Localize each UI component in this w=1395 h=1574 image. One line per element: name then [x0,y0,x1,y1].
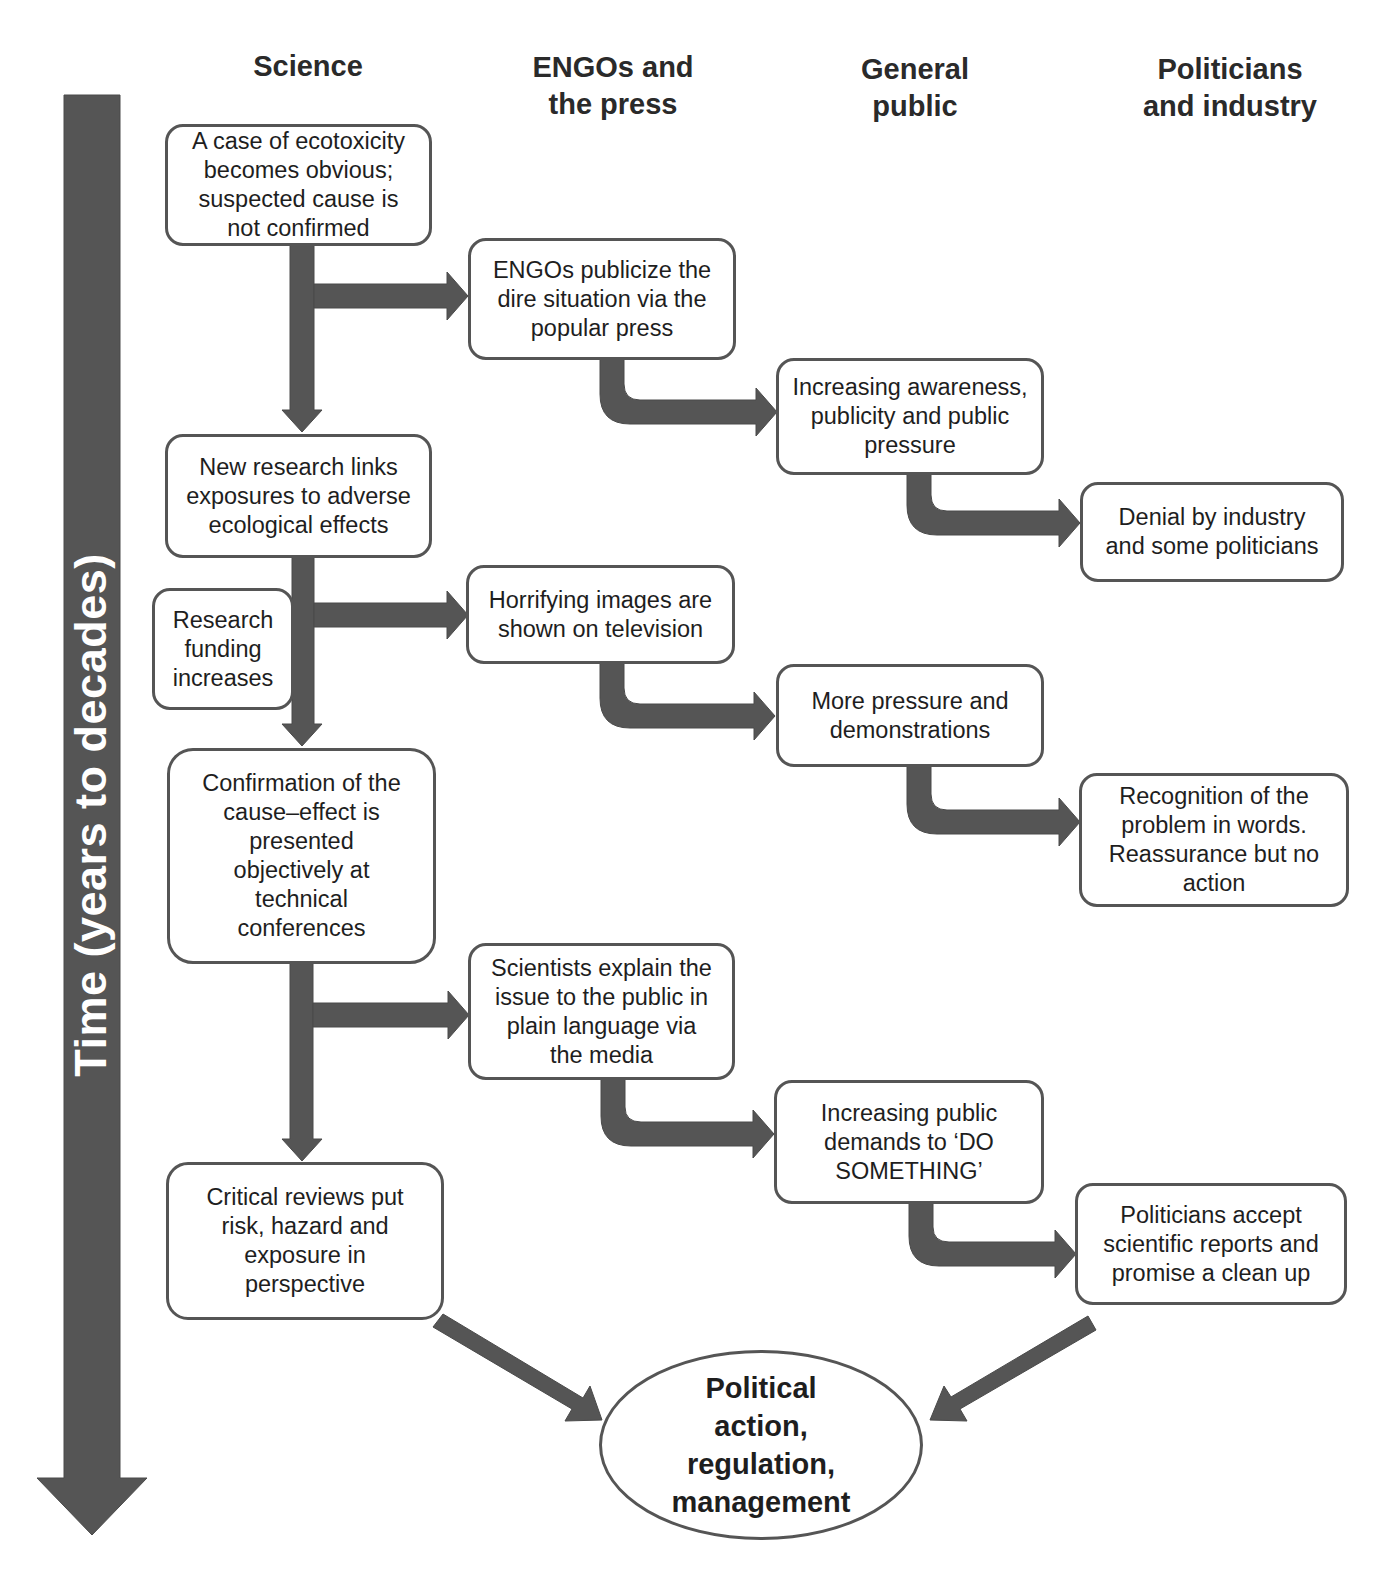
arrow-s1-to-s2-icon [282,243,322,432]
arrow-s4-to-outcome-icon [433,1314,602,1421]
time-axis-label: Time (years to decades) [65,553,117,1076]
node-horrifying-images: Horrifying images are shown on televisio… [466,565,735,664]
node-research-funding: Research funding increases [152,588,294,710]
arrow-s1-to-e1-icon [314,272,468,320]
arrow-g2-to-p2-icon [907,765,1080,846]
node-scientists-explain: Scientists explain the issue to the publ… [468,943,735,1080]
column-header-engos-press: ENGOs and the press [488,49,738,123]
node-recognition-in-words: Recognition of the problem in words. Rea… [1079,773,1349,907]
arrow-s2-to-e2-icon [314,591,468,639]
column-header-politicians-industry: Politicians and industry [1110,51,1350,125]
node-denial: Denial by industry and some politicians [1080,482,1344,582]
column-header-general-public: General public [800,51,1030,125]
arrow-s3-to-s4-icon [282,963,322,1161]
arrow-p3-to-outcome-icon [930,1316,1096,1421]
arrow-g3-to-p3-icon [909,1202,1076,1278]
arrow-e3-to-g3-icon [601,1078,774,1158]
node-confirmation-cause-effect: Confirmation of the cause–effect is pres… [167,748,436,964]
node-increasing-awareness: Increasing awareness, publicity and publ… [776,358,1044,475]
node-new-research-links: New research links exposures to adverse … [165,434,432,558]
node-more-pressure: More pressure and demonstrations [776,664,1044,767]
node-engos-publicize: ENGOs publicize the dire situation via t… [468,238,736,360]
arrow-g1-to-p1-icon [907,472,1080,547]
node-ecotoxicity-case: A case of ecotoxicity becomes obvious; s… [165,124,432,246]
node-political-action-outcome: Political action, regulation, management [599,1350,923,1540]
arrow-e2-to-g2-icon [600,661,775,740]
node-politicians-accept: Politicians accept scientific reports an… [1075,1183,1347,1305]
arrow-e1-to-g1-icon [600,358,777,436]
flow-diagram: Time (years to decades) Science ENGOs an… [0,0,1395,1574]
node-public-demands: Increasing public demands to ‘DO SOMETHI… [774,1080,1044,1204]
column-header-science: Science [208,48,408,85]
arrow-s3-to-e3-icon [313,991,469,1039]
node-critical-reviews: Critical reviews put risk, hazard and ex… [166,1162,444,1320]
